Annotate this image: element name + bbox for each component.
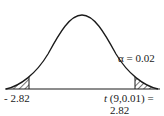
right-critical-value-label: 2.82 — [110, 104, 145, 116]
right-critical-formula-label: t (9,0.01) = — [104, 92, 154, 104]
t-params: (9,0.01) = — [107, 92, 154, 104]
alpha-label: α = 0.02 — [118, 52, 155, 64]
left-critical-value-label: - 2.82 — [4, 92, 30, 104]
